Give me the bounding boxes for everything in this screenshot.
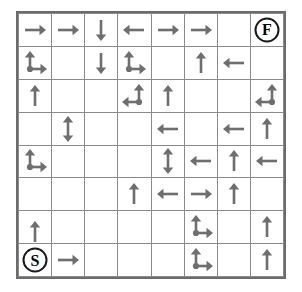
cell-content xyxy=(251,80,283,112)
grid-cell-r1c4[interactable] xyxy=(118,14,151,47)
grid-cell-r2c5[interactable] xyxy=(151,46,184,79)
right-icon xyxy=(190,23,212,37)
cell-content xyxy=(251,244,283,276)
finish-marker: F xyxy=(254,17,279,42)
grid-cell-r6c6[interactable] xyxy=(184,178,217,211)
cell-content xyxy=(19,178,51,210)
cell-content xyxy=(185,14,217,46)
grid-cell-r6c2[interactable] xyxy=(52,178,85,211)
grid-cell-r8c4[interactable] xyxy=(118,244,151,277)
grid-cell-r5c3[interactable] xyxy=(85,145,118,178)
cell-content xyxy=(52,146,84,178)
grid-cell-r6c7[interactable] xyxy=(217,178,250,211)
grid-cell-r4c4[interactable] xyxy=(118,112,151,145)
grid-cell-r7c1[interactable] xyxy=(19,211,52,244)
cell-content xyxy=(251,211,283,243)
grid-cell-r5c2[interactable] xyxy=(52,145,85,178)
grid-cell-r8c1[interactable]: S xyxy=(19,244,52,277)
grid-cell-r5c8[interactable] xyxy=(250,145,283,178)
right-icon xyxy=(57,23,79,37)
cell-content xyxy=(152,244,184,276)
grid-cell-r5c7[interactable] xyxy=(217,145,250,178)
grid-cell-r3c4[interactable] xyxy=(118,79,151,112)
grid-cell-r8c6[interactable] xyxy=(184,244,217,277)
grid-cell-r7c6[interactable] xyxy=(184,211,217,244)
grid-cell-r7c7[interactable] xyxy=(217,211,250,244)
grid-cell-r3c5[interactable] xyxy=(151,79,184,112)
cell-content xyxy=(85,113,117,145)
grid-cell-r2c2[interactable] xyxy=(52,46,85,79)
cell-content xyxy=(251,178,283,210)
grid-cell-r1c1[interactable] xyxy=(19,14,52,47)
cell-content xyxy=(152,211,184,243)
cell-content xyxy=(52,113,84,145)
grid-cell-r7c2[interactable] xyxy=(52,211,85,244)
grid-cell-r2c3[interactable] xyxy=(85,46,118,79)
grid-cell-r7c5[interactable] xyxy=(151,211,184,244)
grid-cell-r3c1[interactable] xyxy=(19,79,52,112)
grid-cell-r8c7[interactable] xyxy=(217,244,250,277)
up-icon xyxy=(260,216,274,238)
grid-cell-r4c7[interactable] xyxy=(217,112,250,145)
cell-content xyxy=(185,244,217,276)
grid-cell-r5c5[interactable] xyxy=(151,145,184,178)
grid-cell-r4c3[interactable] xyxy=(85,112,118,145)
grid-cell-r3c8[interactable] xyxy=(250,79,283,112)
grid-cell-r2c8[interactable] xyxy=(250,46,283,79)
left-icon xyxy=(223,122,245,136)
grid-cell-r8c2[interactable] xyxy=(52,244,85,277)
grid-cell-r2c4[interactable] xyxy=(118,46,151,79)
grid-cell-r1c5[interactable] xyxy=(151,14,184,47)
grid-cell-r4c6[interactable] xyxy=(184,112,217,145)
grid-cell-r8c8[interactable] xyxy=(250,244,283,277)
cell-content: F xyxy=(251,14,283,46)
grid-cell-r8c5[interactable] xyxy=(151,244,184,277)
down-icon xyxy=(94,19,108,41)
cell-content xyxy=(218,47,250,79)
cell-content xyxy=(19,146,51,178)
grid-cell-r1c3[interactable] xyxy=(85,14,118,47)
grid-cell-r5c1[interactable] xyxy=(19,145,52,178)
cell-content xyxy=(152,178,184,210)
up-icon xyxy=(260,118,274,140)
grid-cell-r7c4[interactable] xyxy=(118,211,151,244)
grid-cell-r4c8[interactable] xyxy=(250,112,283,145)
up-icon xyxy=(260,249,274,271)
left-icon xyxy=(256,154,278,168)
grid-cell-r4c1[interactable] xyxy=(19,112,52,145)
cell-content xyxy=(152,113,184,145)
grid-cell-r6c5[interactable] xyxy=(151,178,184,211)
up-right-icon xyxy=(189,215,213,239)
cell-content xyxy=(19,113,51,145)
grid-cell-r3c2[interactable] xyxy=(52,79,85,112)
cell-content xyxy=(19,80,51,112)
grid-cell-r6c1[interactable] xyxy=(19,178,52,211)
grid-row xyxy=(19,178,284,211)
grid-cell-r3c7[interactable] xyxy=(217,79,250,112)
grid-cell-r6c3[interactable] xyxy=(85,178,118,211)
grid-cell-r7c3[interactable] xyxy=(85,211,118,244)
grid-cell-r5c6[interactable] xyxy=(184,145,217,178)
grid-cell-r6c8[interactable] xyxy=(250,178,283,211)
grid-cell-r3c3[interactable] xyxy=(85,79,118,112)
grid-cell-r2c6[interactable] xyxy=(184,46,217,79)
grid-cell-r6c4[interactable] xyxy=(118,178,151,211)
grid-cell-r7c8[interactable] xyxy=(250,211,283,244)
grid-cell-r4c2[interactable] xyxy=(52,112,85,145)
grid-cell-r4c5[interactable] xyxy=(151,112,184,145)
cell-content xyxy=(185,47,217,79)
grid-cell-r1c7[interactable] xyxy=(217,14,250,47)
grid-cell-r1c2[interactable] xyxy=(52,14,85,47)
grid-cell-r3c6[interactable] xyxy=(184,79,217,112)
up-right-icon xyxy=(23,51,47,75)
cell-content xyxy=(118,244,150,276)
grid-cell-r8c3[interactable] xyxy=(85,244,118,277)
up-icon xyxy=(227,150,241,172)
grid-cell-r2c7[interactable] xyxy=(217,46,250,79)
grid-cell-r1c6[interactable] xyxy=(184,14,217,47)
grid-cell-r2c1[interactable] xyxy=(19,46,52,79)
cell-content xyxy=(52,178,84,210)
grid-cell-r5c4[interactable] xyxy=(118,145,151,178)
cell-content xyxy=(118,146,150,178)
grid-cell-r1c8[interactable]: F xyxy=(250,14,283,47)
